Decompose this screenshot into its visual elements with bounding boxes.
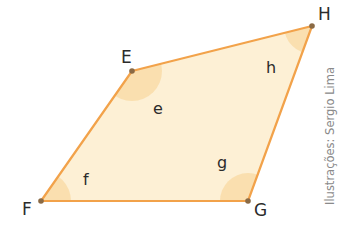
quadrilateral-diagram: E H G F e h g f Ilustrações: Sergio Lima bbox=[0, 0, 359, 232]
vertex-label-H: H bbox=[318, 4, 331, 24]
vertex-dot-F bbox=[38, 198, 44, 204]
illustration-credit: Ilustrações: Sergio Lima bbox=[323, 67, 337, 205]
vertex-dot-G bbox=[245, 198, 251, 204]
vertex-label-F: F bbox=[22, 199, 32, 219]
vertex-dot-E bbox=[129, 68, 135, 74]
angle-label-g: g bbox=[217, 153, 227, 172]
vertex-dot-H bbox=[309, 23, 315, 29]
vertex-label-G: G bbox=[254, 200, 267, 220]
angle-label-e: e bbox=[153, 99, 163, 118]
angle-label-h: h bbox=[266, 58, 276, 77]
angle-label-f: f bbox=[83, 170, 89, 189]
vertex-label-E: E bbox=[121, 47, 132, 67]
quadrilateral-EHGF bbox=[41, 26, 312, 201]
diagram-canvas: E H G F e h g f Ilustrações: Sergio Lima bbox=[0, 0, 359, 232]
